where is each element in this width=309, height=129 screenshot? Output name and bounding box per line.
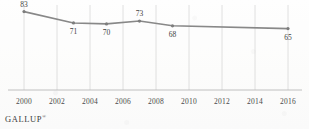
gallup-wordmark: GALLUP <box>5 114 42 124</box>
x-tick-label-2012: 2012 <box>214 97 230 106</box>
data-point-2016 <box>286 27 289 30</box>
x-tick-label-2016: 2016 <box>280 97 296 106</box>
gallup-logo: GALLUP® <box>5 114 47 124</box>
gridlines-group <box>24 5 288 90</box>
data-point-2009 <box>171 24 174 27</box>
value-label-2016: 65 <box>284 33 292 42</box>
data-point-2007 <box>138 19 141 22</box>
data-point-2000 <box>22 10 25 13</box>
x-tick-label-2014: 2014 <box>247 97 263 106</box>
value-label-2009: 68 <box>169 30 177 39</box>
data-point-2003 <box>72 21 75 24</box>
registered-trademark-icon: ® <box>42 114 46 119</box>
value-label-2007: 73 <box>136 9 144 18</box>
value-label-2005: 70 <box>103 28 111 37</box>
x-tick-label-2004: 2004 <box>82 97 98 106</box>
value-label-2003: 71 <box>70 27 78 36</box>
x-axis-tick-labels: 200020022004200620082010201220142016 <box>0 96 309 112</box>
x-tick-label-2000: 2000 <box>16 97 32 106</box>
value-label-2000: 83 <box>20 0 28 9</box>
x-tick-label-2002: 2002 <box>49 97 65 106</box>
line-chart-plot <box>0 0 309 96</box>
x-tick-label-2010: 2010 <box>181 97 197 106</box>
chart-figure: 200020022004200620082010201220142016 837… <box>0 0 309 129</box>
x-tick-label-2006: 2006 <box>115 97 131 106</box>
data-point-2005 <box>105 22 108 25</box>
x-tick-label-2008: 2008 <box>148 97 164 106</box>
